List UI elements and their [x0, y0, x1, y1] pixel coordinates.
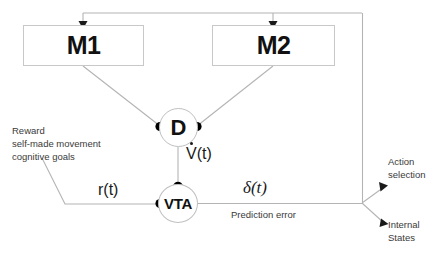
action-selection-line-1: Action	[388, 155, 426, 168]
node-label-d: D	[171, 115, 187, 141]
action-selection-line-2: selection	[388, 168, 426, 181]
node-vta[interactable]: VTA	[158, 184, 198, 223]
output-label-internal-states: Internal States	[388, 218, 420, 244]
prediction-error-caption: Prediction error	[231, 208, 296, 221]
internal-states-line-2: States	[388, 231, 420, 244]
module-label-m2: M2	[257, 31, 291, 60]
reward-input-line-3: cognitive goals	[12, 150, 101, 163]
arrowhead-action-selection	[379, 182, 388, 192]
reward-input-line-2: self-made movement	[12, 137, 101, 150]
module-box-m2[interactable]: M2	[212, 25, 335, 66]
internal-states-line-1: Internal	[388, 218, 420, 231]
node-label-vta: VTA	[164, 195, 192, 212]
wire-junction-to-internal	[362, 203, 384, 223]
overdot-icon	[190, 142, 193, 145]
value-derivative-base: V	[186, 145, 197, 162]
node-d[interactable]: D	[159, 108, 198, 147]
v-with-dot: V	[186, 145, 197, 163]
wire-m1-to-d	[83, 66, 160, 126]
wire-m2-to-d	[197, 66, 273, 126]
signal-label-reward: r(t)	[98, 181, 118, 199]
signal-label-value-derivative: V (t)	[186, 145, 212, 163]
output-label-action-selection: Action selection	[388, 155, 426, 181]
delta-symbol: δ(t)	[243, 178, 267, 197]
diagram-canvas: M1 M2 D VTA Reward self-made movement co…	[0, 0, 443, 256]
signal-label-prediction-error-symbol: δ(t)	[243, 178, 267, 198]
reward-input-label: Reward self-made movement cognitive goal…	[12, 124, 101, 163]
module-label-m1: M1	[67, 31, 101, 60]
value-derivative-rest: (t)	[197, 145, 212, 162]
reward-input-line-1: Reward	[12, 124, 101, 137]
module-box-m1[interactable]: M1	[23, 25, 144, 66]
